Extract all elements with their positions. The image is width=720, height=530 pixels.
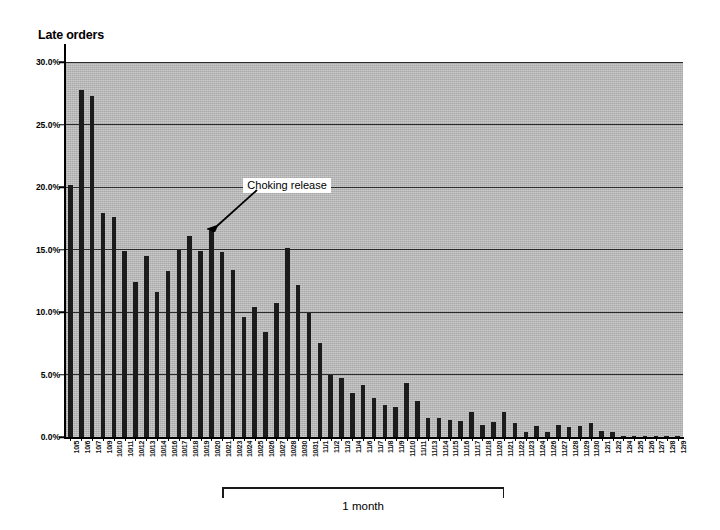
x-tick-mark — [558, 437, 559, 441]
x-tick-mark — [526, 437, 527, 441]
bracket-line — [222, 487, 504, 489]
x-tick-mark — [92, 437, 93, 441]
x-tick-mark — [634, 437, 635, 441]
x-tick-mark — [472, 437, 473, 441]
x-tick-label: 11/22 — [518, 441, 525, 457]
x-tick-mark — [602, 437, 603, 441]
x-tick-label: 11/15 — [452, 441, 459, 457]
x-tick-mark — [363, 437, 364, 441]
x-tick-label: 10/18 — [192, 441, 199, 457]
x-tick-mark — [482, 437, 483, 441]
x-tick-label: 11/17 — [474, 441, 481, 457]
x-tick-label: 10/5 — [73, 441, 80, 453]
x-tick-mark — [266, 437, 267, 441]
one-month-bracket-label: 1 month — [222, 500, 504, 512]
x-tick-label: 11/23 — [528, 441, 535, 457]
x-tick-label: 11/30 — [593, 441, 600, 457]
x-tick-label: 10/12 — [138, 441, 145, 457]
x-tick-label: 11/3 — [344, 441, 351, 453]
x-tick-mark — [591, 437, 592, 441]
x-tick-mark — [645, 437, 646, 441]
x-tick-mark — [222, 437, 223, 441]
late-orders-bar-chart: Late orders 0.0%5.0%10.0%15.0%20.0%25.0%… — [0, 0, 720, 530]
x-tick-mark — [569, 437, 570, 441]
x-tick-label: 10/7 — [95, 441, 102, 453]
x-tick-mark — [396, 437, 397, 441]
x-tick-mark — [439, 437, 440, 441]
x-tick-label: 10/26 — [268, 441, 275, 457]
x-tick-mark — [168, 437, 169, 441]
x-tick-label: 10/16 — [171, 441, 178, 457]
x-tick-mark — [103, 437, 104, 441]
x-tick-label: 12/8 — [669, 441, 676, 453]
x-tick-mark — [547, 437, 548, 441]
x-tick-label: 10/10 — [116, 441, 123, 457]
x-tick-label: 11/7 — [377, 441, 384, 453]
x-tick-mark — [461, 437, 462, 441]
x-tick-mark — [190, 437, 191, 441]
x-tick-label: 10/17 — [181, 441, 188, 457]
x-tick-mark — [678, 437, 679, 441]
x-tick-mark — [656, 437, 657, 441]
x-tick-label: 11/2 — [333, 441, 340, 453]
choking-release-annotation-label: Choking release — [243, 178, 331, 194]
x-tick-mark — [309, 437, 310, 441]
x-tick-label: 10/19 — [203, 441, 210, 457]
x-tick-label: 11/10 — [409, 441, 416, 457]
x-tick-label: 12/6 — [648, 441, 655, 453]
x-tick-label: 10/20 — [214, 441, 221, 457]
x-tick-label: 11/14 — [442, 441, 449, 457]
x-tick-label: 11/1 — [322, 441, 329, 453]
x-tick-label: 11/28 — [572, 441, 579, 457]
x-tick-label: 11/4 — [355, 441, 362, 453]
x-tick-mark — [233, 437, 234, 441]
x-tick-label: 12/7 — [658, 441, 665, 453]
x-tick-mark — [537, 437, 538, 441]
x-tick-mark — [276, 437, 277, 441]
x-tick-label: 11/24 — [539, 441, 546, 457]
x-tick-mark — [125, 437, 126, 441]
x-tick-label: 10/13 — [149, 441, 156, 457]
x-tick-mark — [287, 437, 288, 441]
x-tick-label: 10/31 — [312, 441, 319, 457]
x-tick-label: 11/8 — [387, 441, 394, 453]
x-tick-label: 11/13 — [431, 441, 438, 457]
x-tick-label: 10/14 — [160, 441, 167, 457]
x-tick-label: 10/25 — [257, 441, 264, 457]
one-month-bracket — [222, 487, 504, 501]
x-tick-mark — [320, 437, 321, 441]
x-tick-mark — [623, 437, 624, 441]
x-tick-mark — [374, 437, 375, 441]
x-tick-label: 11/9 — [398, 441, 405, 453]
x-tick-mark — [298, 437, 299, 441]
x-tick-mark — [331, 437, 332, 441]
x-tick-mark — [341, 437, 342, 441]
x-tick-label: 11/20 — [496, 441, 503, 457]
x-tick-label: 10/11 — [127, 441, 134, 457]
x-tick-mark — [201, 437, 202, 441]
x-tick-mark — [504, 437, 505, 441]
x-tick-mark — [255, 437, 256, 441]
x-tick-mark — [70, 437, 71, 441]
x-tick-label: 11/11 — [420, 441, 427, 456]
x-tick-mark — [244, 437, 245, 441]
x-tick-mark — [146, 437, 147, 441]
x-tick-mark — [493, 437, 494, 441]
x-tick-mark — [114, 437, 115, 441]
x-tick-mark — [81, 437, 82, 441]
x-tick-label: 10/24 — [246, 441, 253, 457]
x-tick-label: 11/18 — [485, 441, 492, 457]
x-tick-label: 10/6 — [84, 441, 91, 453]
x-tick-label: 11/26 — [550, 441, 557, 457]
x-tick-mark — [428, 437, 429, 441]
x-tick-label: 12/9 — [680, 441, 687, 453]
x-tick-label: 11/21 — [507, 441, 514, 457]
x-tick-mark — [135, 437, 136, 441]
x-tick-label: 11/6 — [366, 441, 373, 453]
bracket-cap-left — [222, 487, 224, 498]
x-tick-label: 10/23 — [236, 441, 243, 457]
x-tick-label: 12/4 — [626, 441, 633, 453]
x-axis-ticks: 10/510/610/710/910/1010/1110/1210/1310/1… — [0, 0, 720, 530]
x-tick-label: 10/30 — [301, 441, 308, 457]
x-tick-label: 12/1 — [604, 441, 611, 453]
